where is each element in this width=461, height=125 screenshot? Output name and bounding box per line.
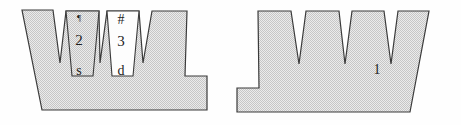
right-profile-group (237, 11, 429, 112)
left-tooth-panel-inner (66, 11, 99, 76)
right-profile-outline (237, 11, 429, 112)
technical-drawing (0, 0, 461, 125)
drawing-canvas: ¶ 2 s # 3 d 1 (0, 0, 461, 125)
left-tooth-panel-white (107, 11, 139, 76)
left-profile-group (22, 10, 207, 110)
